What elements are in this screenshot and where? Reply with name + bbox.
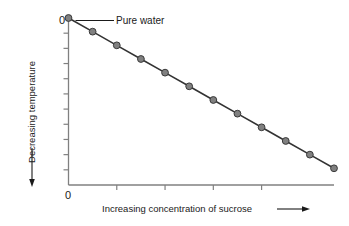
data-point-marker <box>89 28 96 35</box>
data-point-marker <box>234 110 241 117</box>
x-axis-origin-label: 0 <box>65 189 71 201</box>
chart-background <box>0 0 349 226</box>
data-point-marker <box>282 138 289 145</box>
data-point-marker <box>331 165 338 172</box>
data-point-marker <box>306 151 313 158</box>
data-point-marker <box>258 124 265 131</box>
chart-svg: Pure water 0 0 Decreasing temperature In… <box>0 0 349 226</box>
y-axis-title: Decreasing temperature <box>26 61 37 163</box>
y-axis-origin-label: 0 <box>59 14 65 26</box>
data-point-marker <box>65 15 72 22</box>
data-point-marker <box>138 56 145 63</box>
data-point-marker <box>210 97 217 104</box>
x-axis-title: Increasing concentration of sucrose <box>102 203 252 214</box>
data-point-marker <box>162 69 169 76</box>
data-point-marker <box>113 42 120 49</box>
chart-figure: Pure water 0 0 Decreasing temperature In… <box>0 0 349 226</box>
pure-water-label: Pure water <box>116 15 165 26</box>
data-point-marker <box>186 83 193 90</box>
